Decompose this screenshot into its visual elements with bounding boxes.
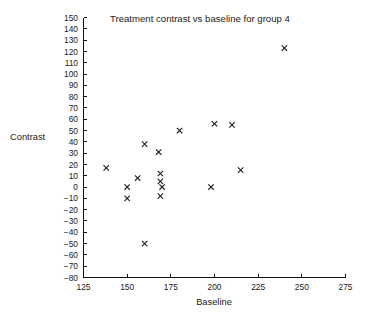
- y-tick-label: 0: [73, 182, 78, 192]
- x-tick-label: 125: [77, 282, 91, 292]
- data-point: [159, 184, 164, 189]
- y-tick-label: −10: [64, 193, 79, 203]
- chart-title: Treatment contrast vs baseline for group…: [110, 13, 291, 24]
- y-tick-label: 120: [64, 47, 78, 57]
- x-tick-label: 275: [339, 282, 353, 292]
- data-point: [208, 184, 213, 189]
- data-point: [238, 167, 243, 172]
- y-tick-label: 110: [65, 58, 79, 68]
- y-tick-label: −30: [64, 216, 79, 226]
- data-point: [177, 128, 182, 133]
- y-tick-label: 140: [64, 24, 78, 34]
- y-tick-label: −20: [64, 205, 79, 215]
- y-tick-label: 10: [69, 171, 79, 181]
- y-tick-label: 150: [64, 13, 78, 23]
- y-tick-label: 20: [69, 160, 79, 170]
- data-point: [142, 141, 147, 146]
- x-axis: 125150175200225250275: [77, 274, 353, 292]
- y-tick-label: −50: [64, 239, 79, 249]
- y-axis: 1501401301201101009080706050403020100−10…: [64, 13, 87, 283]
- y-tick-label: 50: [69, 126, 79, 136]
- x-tick-label: 250: [295, 282, 309, 292]
- y-tick-label: −40: [64, 227, 79, 237]
- x-tick-label: 175: [164, 282, 178, 292]
- data-point: [229, 122, 234, 127]
- y-tick-label: 130: [64, 35, 78, 45]
- data-point: [158, 193, 163, 198]
- y-tick-label: −70: [64, 261, 79, 271]
- y-tick-label: −60: [64, 250, 79, 260]
- scatter-plot-figure: 1501401301201101009080706050403020100−10…: [0, 0, 365, 318]
- x-tick-label: 200: [208, 282, 222, 292]
- y-axis-label: Contrast: [10, 132, 46, 142]
- y-tick-label: 90: [69, 80, 79, 90]
- data-point: [124, 196, 129, 201]
- x-axis-label: Baseline: [196, 297, 232, 307]
- y-tick-label: 80: [69, 92, 79, 102]
- x-tick-label: 150: [120, 282, 134, 292]
- data-point: [142, 241, 147, 246]
- data-point: [156, 149, 161, 154]
- data-point-markers: [104, 45, 288, 246]
- data-point: [282, 45, 287, 50]
- data-point: [104, 165, 109, 170]
- y-tick-label: 40: [69, 137, 79, 147]
- data-point: [158, 179, 163, 184]
- data-point: [124, 184, 129, 189]
- y-tick-label: 70: [69, 103, 79, 113]
- data-point: [212, 121, 217, 126]
- plot-canvas: 1501401301201101009080706050403020100−10…: [0, 0, 365, 318]
- x-tick-label: 225: [251, 282, 265, 292]
- data-point: [135, 175, 140, 180]
- y-tick-label: 30: [69, 148, 79, 158]
- y-tick-label: 100: [64, 69, 78, 79]
- y-tick-label: 60: [69, 114, 79, 124]
- data-point: [158, 171, 163, 176]
